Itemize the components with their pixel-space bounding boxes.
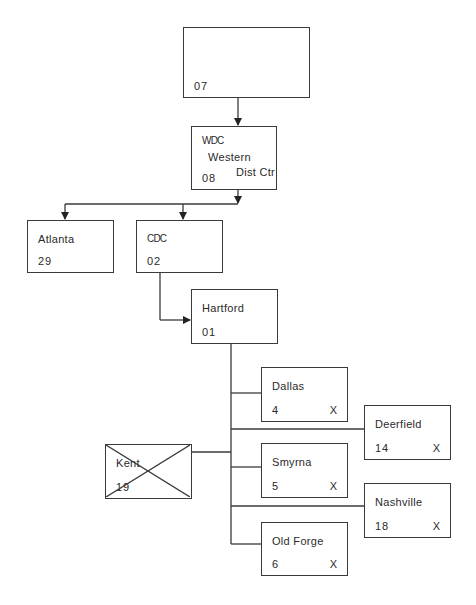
node-kent[interactable]: Kent 19: [105, 444, 192, 499]
node-code: 14: [375, 442, 389, 454]
node-name: Dallas: [272, 380, 304, 392]
x-mark: X: [330, 404, 337, 416]
node-wdc[interactable]: WDC Western Dist Ctr 08: [191, 126, 277, 190]
node-name: CDC: [147, 233, 166, 244]
node-atlanta[interactable]: Atlanta 29: [27, 220, 114, 273]
node-code: 02: [147, 255, 161, 267]
x-mark: X: [330, 480, 337, 492]
cross-out-icon: [106, 445, 190, 497]
node-code: 29: [38, 255, 52, 267]
node-name: Old Forge: [272, 535, 324, 547]
node-name: Hartford: [202, 302, 244, 314]
node-old-forge[interactable]: Old Forge 6 X: [261, 522, 348, 576]
node-smyrna[interactable]: Smyrna 5 X: [261, 443, 348, 498]
node-name: Nashville: [375, 496, 422, 508]
node-subtitle-2: Dist Ctr: [236, 166, 275, 178]
node-code: 01: [202, 326, 216, 338]
node-code: 5: [272, 480, 279, 492]
node-code: 18: [375, 520, 389, 532]
node-name: Deerfield: [375, 418, 422, 430]
node-code: 6: [272, 558, 279, 570]
node-deerfield[interactable]: Deerfield 14 X: [364, 405, 451, 460]
node-name: WDC: [202, 135, 223, 146]
node-cdc[interactable]: CDC 02: [136, 220, 223, 273]
node-subtitle: Western: [208, 151, 251, 163]
node-name: Smyrna: [272, 456, 312, 468]
node-dallas[interactable]: Dallas 4 X: [261, 367, 348, 422]
x-mark: X: [433, 520, 440, 532]
x-mark: X: [433, 442, 440, 454]
node-code: 07: [194, 80, 208, 92]
node-name: Atlanta: [38, 233, 74, 245]
node-code: 4: [272, 404, 279, 416]
node-hartford[interactable]: Hartford 01: [191, 289, 278, 344]
org-chart-diagram: 07 WDC Western Dist Ctr 08 Atlanta 29 CD…: [0, 0, 476, 605]
node-nashville[interactable]: Nashville 18 X: [364, 483, 451, 538]
node-code: 08: [202, 172, 216, 184]
x-mark: X: [330, 558, 337, 570]
node-07[interactable]: 07: [183, 27, 310, 98]
